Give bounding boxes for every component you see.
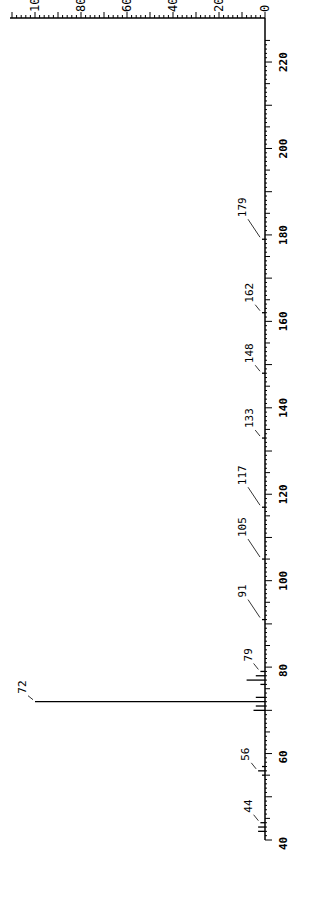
peak-label-148: 148 (243, 343, 256, 363)
mz-tick-label: 40 (277, 837, 290, 850)
peak-label-105: 105 (236, 517, 249, 537)
intensity-tick-label: 80 (74, 0, 88, 12)
mz-tick-label: 180 (277, 225, 290, 245)
mz-tick-label: 200 (277, 139, 290, 159)
intensity-tick-label: 20 (212, 0, 226, 12)
intensity-tick-label: 0 (258, 5, 272, 12)
mz-tick-label: 140 (277, 398, 290, 418)
peak-label-91: 91 (236, 584, 249, 597)
peak-label-117: 117 (236, 465, 249, 485)
intensity-tick-label: 60 (120, 0, 134, 12)
peak-label-79: 79 (242, 648, 255, 661)
mz-tick-label: 220 (277, 52, 290, 72)
mass-spectrum-chart: 02040608010406080100120140160180200220 4… (0, 0, 317, 901)
mz-tick-label: 160 (277, 311, 290, 331)
peak-label-133: 133 (243, 408, 256, 428)
peaks (35, 239, 265, 831)
intensity-tick-label: 10 (28, 0, 42, 12)
peak-labels: 4456727991105117133148162179 (16, 197, 260, 820)
mz-tick-label: 80 (277, 664, 290, 677)
intensity-tick-label: 40 (166, 0, 180, 12)
peak-label-179: 179 (236, 197, 249, 217)
peak-label-44: 44 (242, 799, 255, 813)
mz-tick-label: 120 (277, 484, 290, 504)
mz-tick-label: 60 (277, 750, 290, 763)
mz-tick-label: 100 (277, 571, 290, 591)
peak-label-72: 72 (16, 680, 29, 693)
peak-label-162: 162 (243, 283, 256, 303)
peak-label-56: 56 (239, 748, 252, 761)
